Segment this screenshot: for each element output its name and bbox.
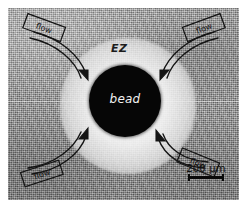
scale-bar-label: 200 µm — [178, 163, 234, 174]
scale-bar: 200 µm — [178, 163, 234, 179]
flow-arrow-top-right: flow — [160, 14, 225, 80]
flow-arrow-bottom-left: flow — [21, 128, 88, 187]
scale-bar-line — [188, 176, 224, 179]
flow-arrow-top-left: flow — [23, 14, 88, 80]
micrograph-plate: bead EZ flow — [8, 8, 239, 200]
micrograph-figure: bead EZ flow — [0, 0, 247, 211]
